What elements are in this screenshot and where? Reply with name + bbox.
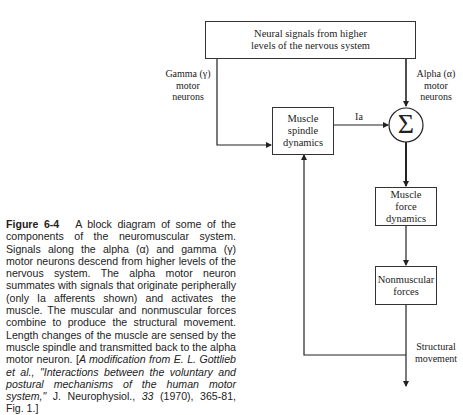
figure-label: Figure 6-4 xyxy=(6,218,59,230)
muscle-force-box: Muscle force dynamics xyxy=(375,187,437,226)
alpha-label: Alpha (α) motor neurons xyxy=(410,68,462,103)
caption-journal: J. Neurophysiol., xyxy=(46,390,141,402)
feedback-loop-line xyxy=(304,155,406,355)
muscle-spindle-box: Muscle spindle dynamics xyxy=(272,107,334,155)
nonmuscular-forces-box: Nonmuscular forces xyxy=(375,266,437,305)
caption-volume: 33 xyxy=(142,390,154,402)
figure-caption: Figure 6-4 A block diagram of some of th… xyxy=(6,218,236,415)
gamma-label: Gamma (γ) motor neurons xyxy=(160,68,216,103)
gamma-pathway-line xyxy=(217,58,271,145)
higher-levels-line1: Neural signals from higher xyxy=(254,28,367,40)
higher-levels-line2: levels of the nervous system xyxy=(251,40,370,52)
structural-movement-label: Structural movement xyxy=(409,341,463,364)
higher-levels-box: Neural signals from higher levels of the… xyxy=(205,21,416,59)
sigma-symbol: Σ xyxy=(392,110,420,138)
caption-body: A block diagram of some of the component… xyxy=(6,218,236,365)
ia-label: Ia xyxy=(352,111,366,123)
